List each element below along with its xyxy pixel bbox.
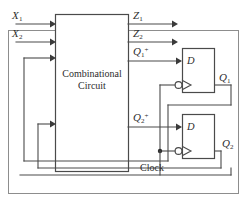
combinational-circuit-block [56, 15, 129, 172]
ff2-clock-inversion-bubble [175, 148, 182, 155]
combinational-label-line2: Circuit [56, 81, 128, 91]
label-x1: X1 [12, 10, 22, 23]
arrowhead-q1-next [176, 58, 182, 65]
combinational-label-line1: Combinational [56, 69, 128, 79]
label-x2: X2 [12, 28, 22, 41]
ff1-clock-inversion-bubble [175, 82, 182, 89]
label-q2-next: Q2+ [133, 112, 149, 125]
label-clock: Clock [140, 163, 164, 173]
ff1-d-input-label: D [187, 56, 195, 67]
label-q1-output: Q1 [219, 72, 231, 85]
label-z2: Z2 [133, 28, 143, 41]
label-q2-output: Q2 [222, 138, 234, 151]
combinational-circuit-label: Combinational Circuit [56, 69, 128, 91]
sequential-circuit-figure: X1 X2 Z1 Z2 Q1+ Q2+ Combinational Circui… [0, 0, 247, 201]
arrowhead-z2 [172, 39, 178, 46]
arrowhead-q2-next [176, 124, 182, 131]
label-q1-next: Q1+ [133, 46, 149, 59]
ff2-d-input-label: D [187, 122, 195, 133]
arrowhead-z1 [172, 21, 178, 28]
circuit-schematic-canvas [0, 0, 247, 201]
label-z1: Z1 [133, 10, 143, 23]
